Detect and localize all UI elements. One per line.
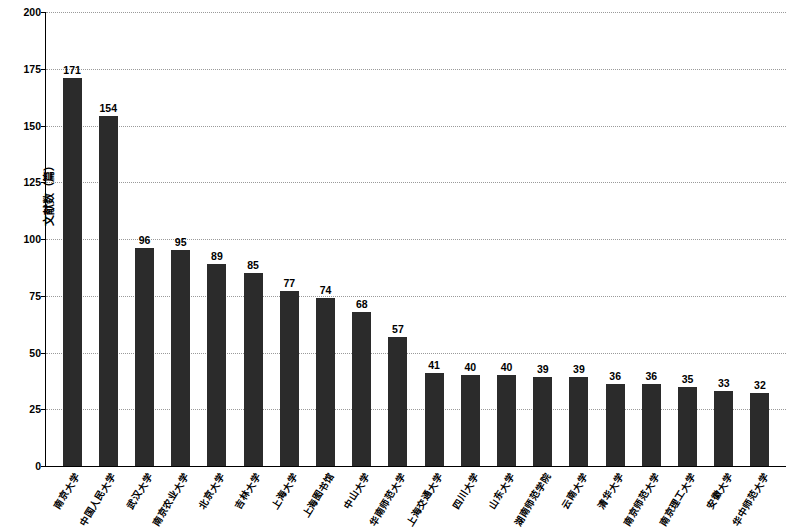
bar[interactable]: 96 <box>135 248 154 466</box>
bar[interactable]: 171 <box>63 78 82 466</box>
y-tick-label: 25 <box>29 403 41 415</box>
x-tick-label: 云南大学 <box>557 470 590 511</box>
bar-value-label: 32 <box>754 379 766 391</box>
bar[interactable]: 41 <box>425 373 444 466</box>
x-tick-label: 四川大学 <box>449 470 482 511</box>
bar-value-label: 40 <box>501 361 513 373</box>
bar-value-label: 95 <box>175 236 187 248</box>
bar-slot: 36 <box>597 12 633 466</box>
bar-slot: 39 <box>525 12 561 466</box>
x-tick-label: 武汉大学 <box>122 470 155 511</box>
x-tick-label: 南京大学 <box>50 470 83 511</box>
bar-value-label: 36 <box>609 370 621 382</box>
bar-slot: 74 <box>307 12 343 466</box>
bar[interactable]: 40 <box>497 375 516 466</box>
x-tick-label: 清华大学 <box>594 470 627 511</box>
x-label-slot: 湖南师范学院 <box>524 467 560 529</box>
y-tick-label: 75 <box>29 290 41 302</box>
x-tick-label: 吉林大学 <box>231 470 264 511</box>
x-label-slot: 四川大学 <box>452 467 488 529</box>
bar-value-label: 33 <box>718 377 730 389</box>
bar[interactable]: 35 <box>678 387 697 466</box>
bar-chart: 文献数（篇） 0255075100125150175200 1711549695… <box>0 0 796 531</box>
bar-slot: 57 <box>380 12 416 466</box>
bar[interactable]: 36 <box>606 384 625 466</box>
y-tick-label: 125 <box>23 176 41 188</box>
x-label-slot: 北京大学 <box>198 467 234 529</box>
x-axis-labels: 南京大学中国人民大学武汉大学南京农业大学北京大学吉林大学上海大学上海图书馆中山大… <box>45 467 786 529</box>
bar[interactable]: 85 <box>244 273 263 466</box>
bar[interactable]: 95 <box>171 250 190 466</box>
bars-container: 1711549695898577746857414040393936363533… <box>46 12 786 466</box>
bar-value-label: 35 <box>682 373 694 385</box>
x-label-slot: 华中师范大学 <box>742 467 778 529</box>
bar-value-label: 57 <box>392 323 404 335</box>
x-tick-label: 上海大学 <box>267 470 300 511</box>
bar-value-label: 39 <box>573 363 585 375</box>
bar-value-label: 68 <box>356 298 368 310</box>
bar-value-label: 77 <box>283 277 295 289</box>
bar[interactable]: 39 <box>533 377 552 466</box>
bar[interactable]: 39 <box>569 377 588 466</box>
bar[interactable]: 77 <box>280 291 299 466</box>
x-label-slot: 南京农业大学 <box>162 467 198 529</box>
bar[interactable]: 40 <box>461 375 480 466</box>
bar[interactable]: 89 <box>207 264 226 466</box>
bar-slot: 32 <box>742 12 778 466</box>
bar[interactable]: 74 <box>316 298 335 466</box>
bar[interactable]: 68 <box>352 312 371 466</box>
bar[interactable]: 57 <box>388 337 407 466</box>
bar-slot: 40 <box>488 12 524 466</box>
x-label-slot: 上海大学 <box>271 467 307 529</box>
bar-slot: 68 <box>344 12 380 466</box>
bar-slot: 89 <box>199 12 235 466</box>
bar-value-label: 85 <box>247 259 259 271</box>
bar[interactable]: 36 <box>642 384 661 466</box>
y-tick-label: 0 <box>35 460 41 472</box>
bar-slot: 96 <box>126 12 162 466</box>
bar-slot: 171 <box>54 12 90 466</box>
y-tick-label: 100 <box>23 233 41 245</box>
x-tick-label: 中山大学 <box>340 470 373 511</box>
bar-slot: 40 <box>452 12 488 466</box>
x-label-slot: 中国人民大学 <box>89 467 125 529</box>
y-tick-label: 200 <box>23 6 41 18</box>
x-tick-label: 北京大学 <box>195 470 228 511</box>
bar-slot: 95 <box>163 12 199 466</box>
plot-area: 0255075100125150175200 17115496958985777… <box>45 12 786 467</box>
y-tick-label: 150 <box>23 120 41 132</box>
bar-slot: 36 <box>633 12 669 466</box>
bar[interactable]: 154 <box>99 116 118 466</box>
bar-slot: 35 <box>669 12 705 466</box>
bar-slot: 39 <box>561 12 597 466</box>
bar-value-label: 74 <box>320 284 332 296</box>
bar-slot: 85 <box>235 12 271 466</box>
y-tick-label: 50 <box>29 347 41 359</box>
x-tick-label: 安徽大学 <box>702 470 735 511</box>
bar-value-label: 41 <box>428 359 440 371</box>
y-tick-label: 175 <box>23 63 41 75</box>
x-label-slot: 上海交通大学 <box>416 467 452 529</box>
bar-value-label: 154 <box>100 102 118 114</box>
bar-value-label: 36 <box>646 370 658 382</box>
bar-value-label: 40 <box>464 361 476 373</box>
bar-value-label: 96 <box>139 234 151 246</box>
x-label-slot: 上海图书馆 <box>307 467 343 529</box>
x-label-slot: 南京理工大学 <box>669 467 705 529</box>
bar[interactable]: 33 <box>714 391 733 466</box>
bar-slot: 33 <box>706 12 742 466</box>
bar-value-label: 89 <box>211 250 223 262</box>
bar-slot: 154 <box>90 12 126 466</box>
bar-value-label: 39 <box>537 363 549 375</box>
bar[interactable]: 32 <box>750 393 769 466</box>
bar-value-label: 171 <box>63 64 81 76</box>
x-label-slot: 云南大学 <box>561 467 597 529</box>
bar-slot: 41 <box>416 12 452 466</box>
x-label-slot: 吉林大学 <box>234 467 270 529</box>
x-tick-label: 山东大学 <box>485 470 518 511</box>
bar-slot: 77 <box>271 12 307 466</box>
